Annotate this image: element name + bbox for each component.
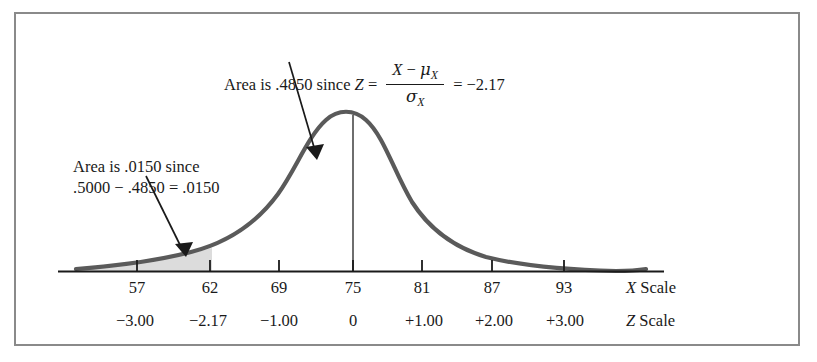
normal-distribution-figure: Area is .4850 since Z = X − μX σX = −2.1… — [0, 0, 817, 362]
x-scale-word: Scale — [636, 278, 676, 297]
upper-annotation: Area is .4850 since Z = X − μX σX = −2.1… — [224, 60, 505, 112]
fraction-numerator: X − μX — [386, 59, 444, 85]
figure-border: Area is .4850 since Z = X − μX σX = −2.1… — [14, 12, 800, 346]
x-scale-axis-title: X Scale — [626, 278, 676, 298]
z-tick-label-1: −2.17 — [189, 311, 227, 331]
z-scale-axis-title: Z Scale — [626, 311, 675, 331]
x-scale-symbol: X — [626, 278, 636, 297]
z-tick-label-5: +2.00 — [475, 311, 513, 331]
x-tick-label-2: 69 — [271, 278, 288, 298]
fraction-denominator: σX — [386, 85, 444, 110]
z-tick-label-2: −1.00 — [260, 311, 298, 331]
x-tick-label-6: 93 — [556, 278, 573, 298]
z-result-value: −2.17 — [467, 75, 505, 94]
z-tick-label-6: +3.00 — [546, 311, 584, 331]
numerator-mu-subscript: X — [431, 68, 438, 82]
z-tick-label-3: 0 — [349, 311, 357, 331]
lower-annotation-line1: Area is .0150 since — [73, 156, 220, 177]
x-tick-label-1: 62 — [202, 278, 219, 298]
z-tick-label-0: −3.00 — [116, 311, 154, 331]
denominator-sigma-subscript: X — [417, 96, 424, 110]
z-formula-fraction: X − μX σX — [386, 59, 444, 111]
z-scale-word: Scale — [635, 311, 675, 330]
z-variable: Z — [355, 75, 364, 94]
upper-annotation-prefix: Area is .4850 since — [224, 75, 350, 94]
denominator-sigma: σ — [406, 87, 417, 106]
x-tick-label-4: 81 — [414, 278, 431, 298]
numerator-mu: μ — [420, 60, 431, 79]
x-tick-label-3: 75 — [345, 278, 362, 298]
z-tick-label-4: +1.00 — [405, 311, 443, 331]
lower-annotation-line2: .5000 − .4850 = .0150 — [73, 177, 220, 198]
z-scale-symbol: Z — [626, 311, 635, 330]
lower-annotation: Area is .0150 since .5000 − .4850 = .015… — [73, 156, 220, 198]
numerator-minus: − — [407, 60, 416, 79]
x-tick-label-5: 87 — [484, 278, 501, 298]
numerator-x: X — [392, 60, 402, 79]
equals-sign-1: = — [368, 75, 377, 94]
equals-sign-2: = — [453, 75, 462, 94]
x-tick-label-0: 57 — [129, 278, 146, 298]
